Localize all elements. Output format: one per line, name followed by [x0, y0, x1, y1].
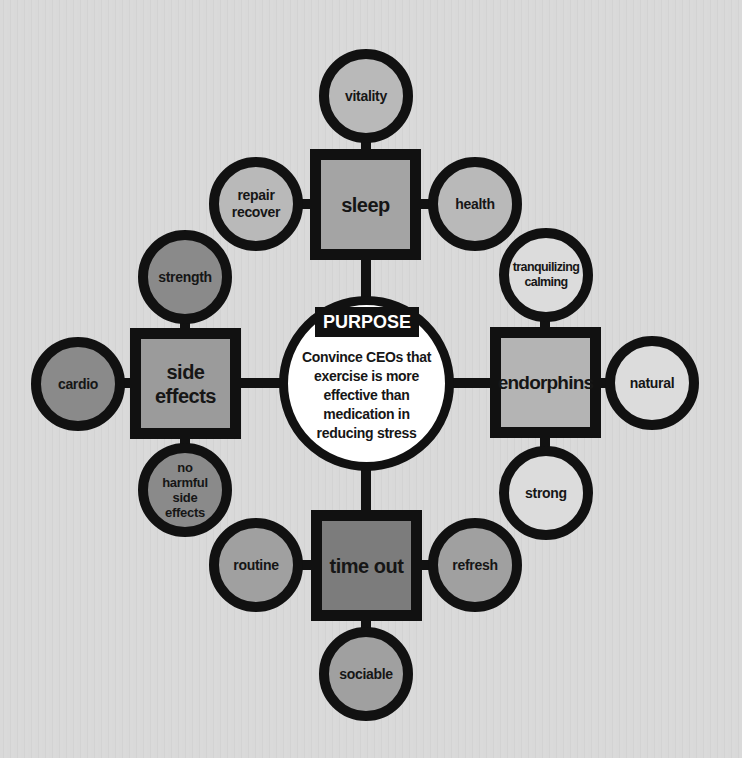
satellite-strength: strength: [138, 230, 232, 324]
satellite-refresh: refresh: [428, 518, 522, 612]
satellite-label: repair recover: [232, 187, 281, 221]
hub-time-out: time out: [311, 510, 422, 621]
purpose-tag: PURPOSE: [315, 307, 419, 337]
satellite-label: natural: [630, 375, 675, 392]
purpose-text: Convince CEOs that exercise is more effe…: [302, 348, 431, 443]
satellite-label: routine: [233, 557, 278, 574]
satellite-label: refresh: [452, 557, 497, 574]
satellite-label: tranquilizing calming: [513, 260, 580, 290]
satellite-strong: strong: [499, 446, 593, 540]
hub-endorphins-label: endorphins: [498, 371, 593, 395]
satellite-repair-recover: repair recover: [209, 157, 303, 251]
satellite-natural: natural: [605, 336, 699, 430]
hub-side-effects-label: side effects: [155, 360, 216, 408]
satellite-label: sociable: [339, 666, 393, 683]
satellite-label: health: [455, 196, 494, 213]
satellite-label: no harmful side effects: [162, 460, 208, 520]
hub-sleep-label: sleep: [341, 193, 390, 217]
hub-time-out-label: time out: [330, 554, 404, 578]
satellite-label: strength: [158, 269, 212, 286]
hub-sleep: sleep: [310, 149, 421, 260]
satellite-vitality: vitality: [319, 49, 413, 143]
satellite-cardio: cardio: [31, 337, 125, 431]
satellite-health: health: [428, 157, 522, 251]
satellite-label: cardio: [58, 376, 98, 393]
satellite-tranquilizing-calming: tranquilizing calming: [499, 228, 593, 322]
satellite-label: strong: [525, 485, 567, 502]
satellite-label: vitality: [345, 88, 387, 105]
hub-side-effects: side effects: [130, 328, 241, 439]
hub-endorphins: endorphins: [490, 327, 601, 438]
satellite-no-harmful-side-effects: no harmful side effects: [138, 443, 232, 537]
mind-map-canvas: sleep vitality repair recover health sid…: [0, 0, 742, 758]
satellite-sociable: sociable: [319, 627, 413, 721]
satellite-routine: routine: [209, 518, 303, 612]
